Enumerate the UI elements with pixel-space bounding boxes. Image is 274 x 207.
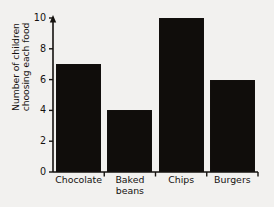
y-axis-tick-label: 0 bbox=[30, 167, 46, 177]
x-axis-tick-label-line: Chocolate bbox=[53, 174, 104, 185]
bar bbox=[159, 18, 204, 172]
bar bbox=[210, 80, 255, 172]
x-axis-tick-label-line: Chips bbox=[156, 174, 207, 185]
x-axis-tick-label: Chips bbox=[156, 174, 207, 185]
y-axis-tick-label: 6 bbox=[30, 75, 46, 85]
plot-area bbox=[53, 18, 258, 172]
x-axis-tick-label-line: beans bbox=[104, 185, 155, 196]
bar bbox=[107, 110, 152, 172]
y-axis-tick-label: 10 bbox=[30, 13, 46, 23]
x-axis-tick-label: Chocolate bbox=[53, 174, 104, 185]
y-axis-tick-labels: 0246810 bbox=[28, 0, 46, 207]
y-axis-tick-label: 8 bbox=[30, 44, 46, 54]
x-axis-tick-labels: ChocolateBakedbeansChipsBurgers bbox=[53, 174, 258, 207]
y-axis-tick-label: 4 bbox=[30, 106, 46, 116]
bar-chart: Number of children choosing each food 02… bbox=[0, 0, 274, 207]
bar bbox=[56, 64, 101, 172]
x-axis-tick-label: Bakedbeans bbox=[104, 174, 155, 196]
y-axis-tick-label: 2 bbox=[30, 136, 46, 146]
x-axis-tick-label: Burgers bbox=[207, 174, 258, 185]
x-axis-tick-label-line: Burgers bbox=[207, 174, 258, 185]
x-axis-tick-label-line: Baked bbox=[104, 174, 155, 185]
